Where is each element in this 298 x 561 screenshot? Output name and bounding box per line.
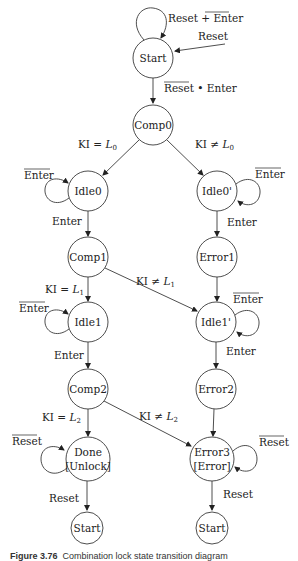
edge-label-idle1p-to-error2: Enter <box>226 345 257 357</box>
node-comp1: Comp1 <box>68 237 108 277</box>
edge-label-idle1-to-comp2: Enter <box>54 349 85 361</box>
edge-label-comp0-to-idle0p: KI ≠ L0 <box>195 138 234 152</box>
node-comp2: Comp2 <box>68 369 108 409</box>
edge-idle0p-self-loop <box>236 179 260 204</box>
node-label: Start <box>74 522 102 534</box>
edge-label-start-to-comp0: Reset • Enter <box>164 82 238 94</box>
node-label: Error2 <box>198 383 234 395</box>
edge-label-error3-to-start: Reset <box>223 488 254 500</box>
edge-label-done-to-start: Reset <box>49 492 80 504</box>
node-done: Done [Unlock] <box>65 437 111 481</box>
edge-idle1p-self-loop <box>235 310 259 335</box>
edge-label-comp1-to-idle1: KI = L1 <box>45 283 84 297</box>
edge-label-start-self: Reset + Enter <box>168 12 244 24</box>
node-idle0-prime: Idle0' <box>197 171 237 211</box>
node-label-line2: [Unlock] <box>65 460 111 472</box>
edge-label-idle1-self: Enter <box>19 302 50 314</box>
node-error2: Error2 <box>196 369 236 409</box>
node-comp0: Comp0 <box>133 105 173 145</box>
edge-comp2-to-error3 <box>104 401 191 446</box>
node-error3: Error3 [Error] <box>190 437 234 481</box>
node-label: Error1 <box>199 251 235 263</box>
edge-label-comp2-to-error3: KI ≠ L2 <box>139 410 178 424</box>
edge-label-done-self: Reset <box>12 435 43 447</box>
edge-error2-to-error3 <box>213 409 214 436</box>
edge-label-reset-in: Reset <box>198 30 229 42</box>
edge-label-idle0-self: Enter <box>24 169 55 181</box>
node-idle0: Idle0 <box>68 171 108 211</box>
node-error1: Error1 <box>197 237 237 277</box>
node-label: Start <box>199 522 227 534</box>
node-start-top: Start <box>133 38 173 78</box>
edge-idle0-self-loop <box>45 179 69 203</box>
node-label: Idle0' <box>202 185 232 197</box>
node-label: Idle1' <box>201 316 231 328</box>
edge-done-self-loop <box>41 447 67 474</box>
edge-reset-in <box>175 44 225 51</box>
figure-caption-text: Combination lock state transition diagra… <box>63 551 228 561</box>
node-label: Idle1 <box>74 316 101 328</box>
edge-start-self-loop <box>136 8 166 40</box>
edge-error3-self-loop <box>233 446 257 472</box>
edge-label-comp2-to-done: KI = L2 <box>42 411 81 425</box>
node-label: Start <box>140 52 168 64</box>
node-label: Comp2 <box>69 383 107 395</box>
node-label-line1: Error3 <box>194 446 230 458</box>
node-label: Comp1 <box>69 251 107 263</box>
edge-label-comp1-to-idle1p: KI ≠ L1 <box>136 275 175 289</box>
node-label-line2: [Error] <box>193 460 230 472</box>
edge-label-comp0-to-idle0: KI = L0 <box>78 138 117 152</box>
node-start-left: Start <box>71 512 103 544</box>
node-idle1: Idle1 <box>68 302 108 342</box>
edge-label-idle0p-to-error1: Enter <box>227 216 258 228</box>
edge-label-idle0-to-comp1: Enter <box>52 215 83 227</box>
node-label: Idle0 <box>74 185 101 197</box>
node-start-right: Start <box>196 512 228 544</box>
node-idle1-prime: Idle1' <box>196 302 236 342</box>
edge-label-idle1p-self: Enter <box>233 293 264 305</box>
edge-label-error3-self: Reset <box>259 436 290 448</box>
figure-number: Figure 3.76 <box>10 551 58 561</box>
edge-label-idle0p-self: Enter <box>255 168 286 180</box>
figure-caption: Figure 3.76 Combination lock state trans… <box>10 551 228 561</box>
node-label: Comp0 <box>134 119 172 131</box>
node-label-line1: Done <box>74 446 102 458</box>
